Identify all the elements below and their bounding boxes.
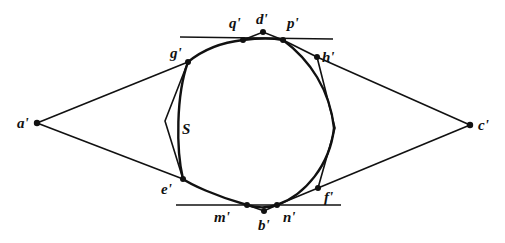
label-c: c' [478,117,489,133]
line-c-h [317,57,470,125]
label-a: a' [17,115,29,131]
label-f: f' [324,189,333,205]
line-a-g [37,62,188,123]
label-e: e' [161,181,172,197]
label-g: g' [169,45,182,61]
point-e [180,176,186,182]
label-m: m' [214,209,230,225]
point-n [274,202,280,208]
circle-s [178,39,334,208]
line-a-e [37,123,183,179]
point-g [185,59,191,65]
point-c [467,122,473,128]
label-h: h' [322,49,335,65]
label-b: b' [258,217,270,233]
label-n: n' [283,209,296,225]
point-a [34,120,40,126]
point-q [240,37,246,43]
label-p: p' [285,15,299,31]
line-c-f [318,125,470,188]
point-f [315,185,321,191]
point-p [280,37,286,43]
label-s: S [182,121,190,137]
diagram-canvas: a' c' d' q' p' g' h' e' f' m' b' n' S [0,0,505,243]
label-d: d' [256,11,268,27]
edge-f-n [277,188,318,205]
point-b [261,208,267,214]
point-d [260,29,266,35]
point-m [244,202,250,208]
point-h [314,54,320,60]
label-q: q' [229,15,241,31]
